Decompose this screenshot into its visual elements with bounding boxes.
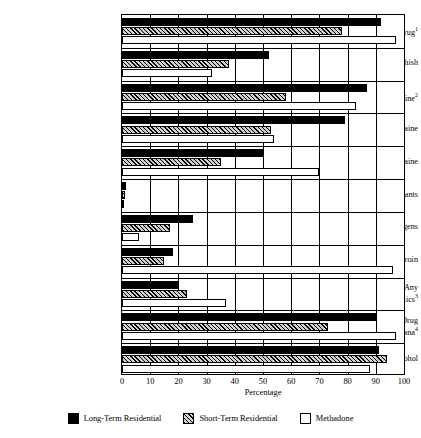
bar-methadone [122, 365, 370, 373]
category-separator [122, 146, 404, 147]
x-axis-tick-label: 70 [304, 377, 334, 387]
bar-shortterm [122, 323, 328, 331]
bar-methadone [122, 332, 396, 340]
legend-label: Short-Term Residential [199, 414, 277, 423]
bar-longterm [122, 18, 381, 26]
category-separator [122, 245, 404, 246]
x-axis-tick-label: 20 [163, 377, 193, 387]
bar-methadone [122, 266, 393, 274]
bar-longterm [122, 84, 367, 92]
horizontal-bar-chart: Any Illicit Drug1Marijuana/HashishAny Co… [0, 0, 421, 438]
bar-longterm [122, 182, 126, 190]
x-axis-tick-label: 80 [333, 377, 363, 387]
bar-longterm [122, 346, 379, 354]
bar-methadone [122, 233, 139, 241]
legend-swatch-methadone [300, 413, 311, 424]
bar-shortterm [122, 191, 125, 199]
bar-longterm [122, 215, 193, 223]
footnote-marker: 2 [415, 92, 418, 98]
bar-longterm [122, 51, 269, 59]
x-axis-tick-label: 90 [361, 377, 391, 387]
bar-longterm [122, 149, 263, 157]
x-axis-tick-label: 10 [135, 377, 165, 387]
legend-item: Long-Term Residential [68, 413, 162, 424]
x-axis-tick-label: 100 [389, 377, 419, 387]
legend-label: Long-Term Residential [84, 414, 162, 423]
bar-methadone [122, 102, 356, 110]
bar-shortterm [122, 60, 229, 68]
bar-shortterm [122, 355, 387, 363]
category-separator [122, 179, 404, 180]
category-separator [122, 212, 404, 213]
legend-swatch-longterm [68, 413, 79, 424]
x-axis-tick-label: 40 [220, 377, 250, 387]
plot-area [121, 14, 405, 375]
bar-shortterm [122, 126, 271, 134]
gridline [376, 15, 377, 374]
bar-methadone [122, 69, 212, 77]
footnote-marker: 3 [415, 293, 418, 299]
bar-shortterm [122, 224, 170, 232]
legend-item: Short-Term Residential [183, 413, 277, 424]
legend-swatch-shortterm [183, 413, 194, 424]
bar-shortterm [122, 93, 286, 101]
legend-item: Methadone [300, 413, 354, 424]
category-separator [122, 48, 404, 49]
bar-methadone [122, 36, 396, 44]
category-separator [122, 343, 404, 344]
x-axis-tick-label: 50 [248, 377, 278, 387]
footnote-marker: 4 [415, 326, 418, 332]
x-axis-tick-label: 60 [276, 377, 306, 387]
category-separator [122, 113, 404, 114]
legend: Long-Term ResidentialShort-Term Resident… [0, 413, 421, 424]
category-separator [122, 81, 404, 82]
bar-longterm [122, 281, 178, 289]
footnote-marker: 1 [415, 26, 418, 32]
bar-methadone [122, 135, 274, 143]
bar-methadone [122, 299, 226, 307]
x-axis-tick-label: 30 [192, 377, 222, 387]
bar-shortterm [122, 290, 187, 298]
category-separator [122, 278, 404, 279]
bar-methadone [122, 200, 124, 208]
bar-shortterm [122, 158, 221, 166]
bar-longterm [122, 313, 376, 321]
category-separator [122, 310, 404, 311]
x-axis-tick-label: 0 [107, 377, 137, 387]
legend-label: Methadone [316, 414, 354, 423]
bar-longterm [122, 116, 345, 124]
bar-shortterm [122, 27, 342, 35]
bar-longterm [122, 248, 173, 256]
bar-methadone [122, 168, 319, 176]
bar-shortterm [122, 257, 164, 265]
x-axis-title: Percentage [121, 388, 405, 397]
